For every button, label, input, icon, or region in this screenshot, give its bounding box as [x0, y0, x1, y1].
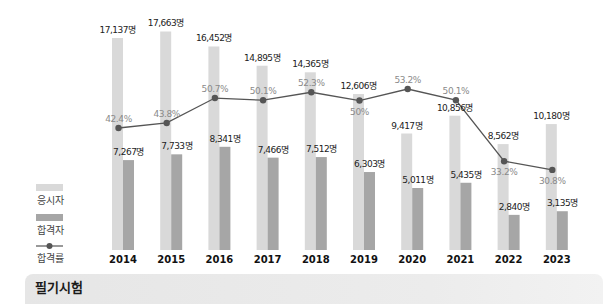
bar-passers: [364, 172, 375, 250]
pass-rate-marker: [356, 97, 362, 103]
passers-value-label: 7,267명: [113, 147, 144, 157]
passers-value-label: 3,135명: [547, 198, 578, 208]
year-tick-label: 2016: [205, 254, 233, 265]
applicants-value-label: 10,180명: [533, 111, 569, 121]
year-tick-label: 2023: [543, 254, 571, 265]
exam-chart: 17,137명7,267명201417,663명7,733명201516,452…: [0, 0, 609, 270]
pass-rate-value-label: 50.1%: [443, 86, 470, 96]
year-tick-label: 2020: [398, 254, 426, 265]
pass-rate-marker: [308, 89, 314, 95]
bar-passers: [316, 157, 327, 250]
pass-rate-marker: [212, 95, 218, 101]
bar-applicants: [401, 134, 412, 250]
pass-rate-value-label: 50.7%: [202, 84, 229, 94]
applicants-value-label: 17,663명: [148, 18, 184, 28]
passers-value-label: 6,303명: [354, 159, 385, 169]
legend-label-applicants: 응시자: [37, 195, 64, 206]
applicants-value-label: 17,137명: [100, 25, 136, 35]
legend-label-pass-rate: 합격률: [37, 252, 64, 264]
pass-rate-polyline: [119, 89, 553, 170]
year-tick-label: 2015: [157, 254, 185, 265]
pass-rate-marker: [164, 120, 170, 126]
bar-passers: [509, 215, 520, 250]
passers-value-label: 2,840명: [499, 202, 530, 212]
bar-passers: [412, 188, 423, 250]
bar-applicants: [112, 38, 123, 250]
pass-rate-marker: [115, 125, 121, 131]
applicants-value-label: 14,895명: [244, 53, 280, 63]
year-tick-label: 2021: [446, 254, 474, 265]
pass-rate-value-label: 53.2%: [394, 75, 421, 85]
year-tick-label: 2019: [350, 254, 378, 265]
legend-swatch-passers: [36, 214, 63, 221]
bar-passers: [123, 160, 134, 250]
pass-rate-value-label: 43.8%: [153, 109, 180, 119]
applicants-value-label: 10,856명: [437, 103, 473, 113]
section-title: 필기시험: [35, 277, 83, 296]
year-tick-label: 2022: [495, 254, 523, 265]
pass-rate-marker: [405, 86, 411, 92]
legend-label-passers: 합격자: [37, 224, 64, 236]
passers-value-label: 8,341명: [210, 134, 241, 144]
passers-value-label: 5,435명: [451, 170, 482, 180]
pass-rate-value-label: 50%: [350, 107, 370, 117]
passers-value-label: 5,011명: [402, 175, 433, 185]
applicants-value-label: 9,417명: [391, 121, 422, 131]
passers-value-label: 7,512명: [306, 144, 337, 154]
year-tick-label: 2018: [302, 254, 330, 265]
pass-rate-value-label: 33.2%: [491, 167, 518, 177]
pass-rate-marker: [501, 158, 507, 164]
pass-rate-value-label: 30.8%: [539, 176, 566, 186]
applicants-value-label: 8,562명: [488, 131, 519, 141]
passers-value-label: 7,733명: [161, 141, 192, 151]
section-banner: 필기시험: [25, 274, 603, 304]
bar-passers: [557, 211, 568, 250]
pass-rate-value-label: 50.1%: [250, 86, 277, 96]
bar-applicants: [208, 46, 219, 250]
bar-applicants: [546, 124, 557, 250]
legend-marker-icon: [47, 243, 53, 249]
passers-value-label: 7,466명: [258, 145, 289, 155]
pass-rate-value-label: 52.3%: [298, 78, 325, 88]
bar-applicants: [449, 116, 460, 250]
pass-rate-value-label: 42.4%: [105, 114, 132, 124]
pass-rate-marker: [260, 97, 266, 103]
pass-rate-marker: [549, 167, 555, 173]
year-tick-label: 2014: [109, 254, 137, 265]
bar-passers: [219, 147, 230, 250]
legend-swatch-applicants: [36, 184, 63, 191]
year-tick-label: 2017: [254, 254, 282, 265]
legend: 응시자 합격자 합격률: [36, 184, 64, 264]
applicants-value-label: 14,365명: [292, 59, 328, 69]
bar-passers: [460, 183, 471, 250]
bar-passers: [171, 154, 182, 250]
bar-passers: [268, 158, 279, 250]
bar-applicants: [305, 72, 316, 250]
bar-applicants: [353, 94, 364, 250]
applicants-value-label: 16,452명: [196, 33, 232, 43]
applicants-value-label: 12,606명: [341, 81, 377, 91]
